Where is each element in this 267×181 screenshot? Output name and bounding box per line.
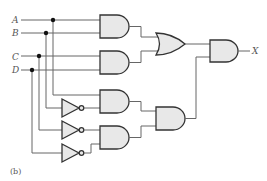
not-gate-2 [62, 121, 84, 139]
and-gate-2 [100, 51, 129, 74]
not-gate-1 [62, 99, 84, 117]
wire-and4-and5 [129, 126, 156, 138]
input-label-b: B [11, 28, 19, 38]
and-gate-4 [100, 126, 129, 149]
junction-a [51, 18, 55, 22]
wire-d-tap [32, 70, 62, 153]
wire-and2-or [129, 51, 159, 63]
and-gate-3 [100, 90, 129, 113]
wire-a-tap [53, 20, 100, 95]
and-gate-final [210, 40, 238, 62]
figure-caption: (b) [10, 167, 21, 176]
wire-and5-final [185, 57, 210, 119]
and-gate-1 [100, 15, 129, 38]
wire-and1-or [129, 27, 159, 38]
input-label-c: C [12, 52, 19, 62]
wire-not3-out [84, 144, 100, 153]
input-label-d: D [11, 65, 19, 75]
input-label-a: A [11, 15, 19, 25]
not-gate-3 [62, 144, 84, 162]
logic-circuit: A B C D X [0, 0, 267, 181]
and-gate-5 [156, 107, 185, 130]
junction-b [44, 31, 48, 35]
output-label-x: X [251, 46, 259, 56]
wire-c-tap [39, 56, 62, 130]
wire-and3-and5 [129, 102, 156, 112]
junction-c [37, 54, 41, 58]
or-gate [156, 33, 185, 55]
junction-d [30, 68, 34, 72]
